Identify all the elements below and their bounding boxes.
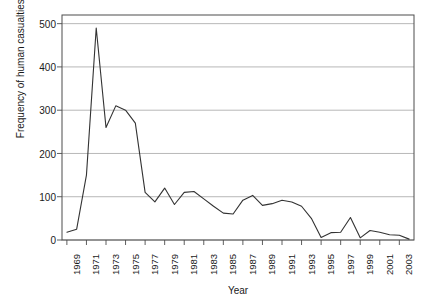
data-series-line <box>67 28 409 239</box>
chart-figure: Frequency of human casualties (death) Ye… <box>0 0 430 306</box>
plot-area <box>0 0 430 306</box>
